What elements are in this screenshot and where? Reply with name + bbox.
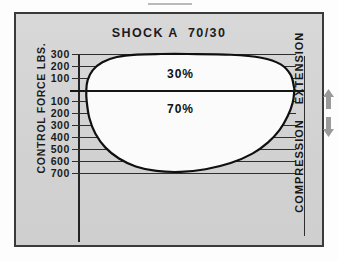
y-tick-label: 100 [51, 95, 70, 107]
y-tick-label: 300 [51, 119, 70, 131]
percentage-label-compression: 70% [167, 102, 194, 116]
y-tick-label: 700 [51, 167, 70, 179]
y-tick-label: 100 [51, 72, 70, 84]
arrow-up-icon [322, 88, 335, 110]
scan-artifact-line [148, 3, 192, 5]
y-tick-label: 200 [51, 107, 70, 119]
percentage-label-extension: 30% [167, 67, 194, 81]
y-tick-label: 300 [51, 48, 70, 60]
figure-frame: SHOCK A 70/30 CONTROL FORCE LBS. 3002001… [14, 12, 324, 247]
zero-force-baseline [70, 90, 305, 92]
arrow-down-icon [322, 116, 335, 138]
plot-area: 300200100100200300400500600700 30%70% [78, 54, 296, 242]
y-axis-title: CONTROL FORCE LBS. [35, 20, 47, 196]
y-tick-label: 200 [51, 60, 70, 72]
compression-region-label: COMPRESSION [293, 104, 305, 228]
y-tick-label: 600 [51, 155, 70, 167]
chart-title: SHOCK A 70/30 [16, 26, 322, 40]
y-tick-label: 500 [51, 143, 70, 155]
envelope-curve [78, 54, 296, 242]
extension-region-label: EXTENSION [293, 18, 305, 118]
y-tick-label: 400 [51, 131, 70, 143]
